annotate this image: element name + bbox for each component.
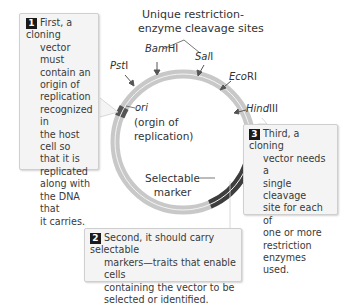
ori-desc-line-2: replication) <box>134 129 193 143</box>
callout-line: replicated <box>40 166 95 178</box>
callout-line: markers—traits that enable cells <box>104 257 238 282</box>
ori-description: (orgin of replication) <box>134 115 193 143</box>
site-italic: Pst <box>110 60 125 71</box>
ori-label: ori <box>135 102 148 113</box>
site-italic: Bam <box>145 43 168 54</box>
ori-desc-line-1: (orgin of <box>134 115 193 129</box>
callout-line: contain an <box>40 67 95 79</box>
site-roman: I <box>210 51 213 62</box>
callout-line: containing the vector to be <box>104 282 238 294</box>
title-line-2: enzyme cleavage sites <box>138 22 248 36</box>
site-label-bamhi: BamHI <box>145 43 178 54</box>
callout-2: 2Second, it should carry selectable mark… <box>84 228 242 282</box>
callout-2-number: 2 <box>90 233 101 244</box>
callout-1-connector <box>100 98 118 117</box>
callout-line: along with <box>40 178 95 190</box>
marker-line-2: marker <box>145 185 200 199</box>
callout-line: that it is <box>40 153 95 165</box>
site-label-sali: SalI <box>195 51 213 62</box>
callout-line: single cleavage <box>263 178 334 203</box>
callout-line: Second, it should carry selectable <box>90 232 214 255</box>
site-roman: I <box>125 60 128 71</box>
callout-line: vector must <box>40 42 95 67</box>
callout-line: recognized in <box>40 104 95 129</box>
title-line-1: Unique restriction- <box>138 8 248 22</box>
site-label-ecori: EcoRI <box>229 71 257 82</box>
callout-line: origin of <box>40 79 95 91</box>
site-italic: Sal <box>195 51 210 62</box>
callout-line: the DNA that <box>40 191 95 216</box>
site-roman: HI <box>168 43 178 54</box>
callout-line: replication <box>40 91 95 103</box>
site-label-hindiii: HindIII <box>246 103 278 114</box>
callout-line: selected or identified. <box>104 294 238 306</box>
callout-1-number: 1 <box>26 18 37 29</box>
callout-line: it carries. <box>40 216 95 228</box>
callout-1: 1First, a cloning vector must contain an… <box>19 13 99 170</box>
diagram-title: Unique restriction- enzyme cleavage site… <box>138 8 248 36</box>
site-roman: RI <box>247 71 257 82</box>
site-italic: Hind <box>246 103 269 114</box>
callout-3-number: 3 <box>249 129 260 140</box>
callout-line: enzymes used. <box>263 252 334 277</box>
site-roman: III <box>269 103 278 114</box>
selectable-marker-label: Selectable marker <box>145 171 200 199</box>
marker-line-1: Selectable <box>145 171 200 185</box>
callout-line: vector needs a <box>263 153 334 178</box>
callout-line: restriction <box>263 240 334 252</box>
callout-line: site for each of <box>263 202 334 227</box>
site-label-psti: PstI <box>110 60 128 71</box>
callout-3: 3Third, a cloning vector needs a single … <box>243 124 338 215</box>
site-italic: Eco <box>229 71 247 82</box>
callout-line: the host cell so <box>40 129 95 154</box>
callout-line: one or more <box>263 227 334 239</box>
